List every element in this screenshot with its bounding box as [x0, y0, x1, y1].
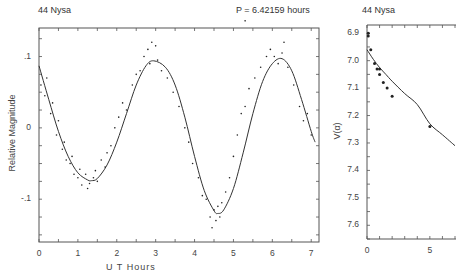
y-tick-label: 7.2: [329, 110, 359, 120]
x-tick-label: 4: [185, 248, 205, 258]
x-tick-label: 7: [301, 248, 321, 258]
y-tick-label: 7.6: [329, 219, 359, 229]
y-tick-label: .1: [1, 51, 31, 61]
y-tick-label: 7.3: [329, 137, 359, 147]
x-tick-label: 5: [420, 245, 440, 255]
chart-canvas: [0, 0, 456, 276]
y-tick-label: 7.5: [329, 192, 359, 202]
x-tick-label: 1: [68, 248, 88, 258]
x-tick-label: 0: [357, 245, 377, 255]
y-tick-label: 7.1: [329, 82, 359, 92]
y-tick-label: -.1: [1, 193, 31, 203]
y-tick-label: 7.0: [329, 55, 359, 65]
x-tick-label: 6: [262, 248, 282, 258]
x-tick-label: 2: [107, 248, 127, 258]
y-tick-label: 7.4: [329, 164, 359, 174]
lightcurve-plot: [39, 20, 319, 242]
x-tick-label: 3: [146, 248, 166, 258]
x-tick-label: 0: [29, 248, 49, 258]
y-tick-label: 0: [1, 122, 31, 132]
y-tick-label: 6.9: [329, 27, 359, 37]
x-tick-label: 5: [223, 248, 243, 258]
phase-curve-plot: [367, 25, 456, 239]
